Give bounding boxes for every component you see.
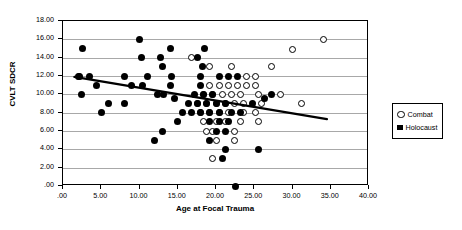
y-tick-label: 16.00 <box>0 34 54 41</box>
x-tick-mark <box>100 185 101 189</box>
y-tick-label: 2.00 <box>0 163 54 170</box>
y-tick-label: 10.00 <box>0 89 54 96</box>
y-tick-label: 8.00 <box>0 108 54 115</box>
x-tick-mark <box>62 185 63 189</box>
x-tick-label: 25.00 <box>233 192 273 199</box>
y-tick-label: 12.00 <box>0 71 54 78</box>
x-tick-label: 15.00 <box>157 192 197 199</box>
x-tick-label: 40.00 <box>348 192 388 199</box>
x-tick-mark <box>292 185 293 189</box>
x-tick-mark <box>368 185 369 189</box>
y-tick-label: .00 <box>0 181 54 188</box>
x-tick-mark <box>253 185 254 189</box>
x-tick-label: .00 <box>42 192 82 199</box>
y-tick-label: 4.00 <box>0 144 54 151</box>
legend-item-label: Holocaust <box>406 124 438 131</box>
x-tick-label: 35.00 <box>310 192 350 199</box>
x-tick-label: 10.00 <box>119 192 159 199</box>
x-tick-mark <box>330 185 331 189</box>
y-tick-label: 14.00 <box>0 53 54 60</box>
x-tick-mark <box>139 185 140 189</box>
x-tick-label: 20.00 <box>195 192 235 199</box>
filled-square-icon <box>397 125 403 131</box>
open-circle-icon <box>397 111 405 119</box>
trend-line <box>63 21 369 186</box>
chart-legend: CombatHolocaust <box>392 103 443 139</box>
legend-item: Holocaust <box>397 121 437 134</box>
x-tick-label: 30.00 <box>272 192 312 199</box>
plot-area <box>62 20 368 185</box>
x-tick-mark <box>215 185 216 189</box>
y-tick-label: 6.00 <box>0 126 54 133</box>
scatter-chart-figure: CVLT SDCR .002.004.006.008.0010.0012.001… <box>0 0 462 230</box>
x-tick-mark <box>177 185 178 189</box>
x-axis-title: Age at Focal Trauma <box>62 205 368 213</box>
legend-item-label: Combat <box>408 111 433 118</box>
x-tick-label: 5.00 <box>80 192 120 199</box>
y-tick-label: 18.00 <box>0 16 54 23</box>
legend-item: Combat <box>397 108 437 121</box>
